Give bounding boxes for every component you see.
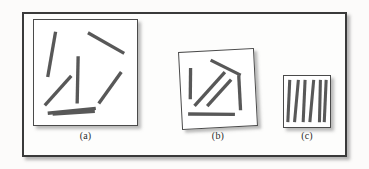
line-segment xyxy=(295,80,299,122)
panel-a-segments xyxy=(34,20,137,125)
panel-a-box xyxy=(33,19,138,126)
line-segment xyxy=(88,33,124,54)
line-segment xyxy=(188,112,235,117)
line-segment xyxy=(211,59,241,77)
line-segment xyxy=(310,80,314,122)
panel-b xyxy=(178,48,258,130)
panel-a xyxy=(33,19,138,126)
line-segment xyxy=(48,32,56,77)
panel-b-box xyxy=(178,48,258,130)
line-segment xyxy=(303,80,305,122)
panel-c-box xyxy=(283,75,331,128)
line-segment xyxy=(77,56,78,103)
panel-c-segments xyxy=(284,76,330,127)
line-segment xyxy=(288,80,290,122)
line-segment xyxy=(239,75,241,110)
line-segment xyxy=(189,68,193,99)
line-segment xyxy=(324,80,326,122)
panel-b-label: (b) xyxy=(180,130,256,141)
panel-c xyxy=(283,75,331,128)
line-segment xyxy=(319,80,320,122)
line-segment xyxy=(206,80,233,107)
panel-a-label: (a) xyxy=(33,130,138,141)
figure-root: (a) (b) (c) xyxy=(0,0,369,169)
panel-b-segments xyxy=(179,49,257,129)
line-segment xyxy=(45,76,71,105)
line-segment xyxy=(99,72,122,103)
panel-c-label: (c) xyxy=(283,130,331,141)
